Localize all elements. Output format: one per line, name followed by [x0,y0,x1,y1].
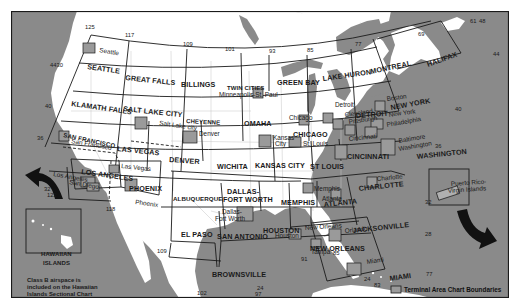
sectional-chicago[interactable]: CHICAGO [293,130,328,139]
svg-text:91: 91 [301,256,307,262]
hawaii-inset [26,209,81,253]
sectional-brownsville[interactable]: BROWNSVILLE [212,270,266,279]
svg-text:102: 102 [197,290,207,296]
svg-text:83: 83 [374,282,380,288]
bahamas [380,276,382,278]
hawaii-note-line3: Islands Sectional Chart [27,291,92,297]
svg-text:61: 61 [470,18,476,24]
legend-tac-label: Terminal Area Chart Boundaries [404,286,502,293]
svg-text:40: 40 [45,103,51,109]
sectional-hawaiian[interactable]: HAWAIIAN [41,251,72,257]
hawaii-note-line2: included on the Hawaiian [27,284,98,290]
sectional-green-bay[interactable]: GREEN BAY [277,78,320,87]
svg-text:97: 97 [255,291,261,297]
svg-text:32: 32 [425,199,431,205]
tac-dallas-2[interactable]: Fort Worth [215,215,246,222]
tac-denver[interactable]: Denver [199,130,220,137]
svg-text:24: 24 [257,285,264,291]
sectional-phoenix[interactable]: PHOENIX [129,184,162,193]
svg-text:28: 28 [425,231,431,237]
sectional-el-paso[interactable]: EL PASO [181,230,213,239]
sectional-st-louis[interactable]: ST LOUIS [310,162,344,171]
sectional-kansas-city[interactable]: KANSAS CITY [255,161,305,170]
svg-text:85: 85 [307,47,313,53]
svg-text:77: 77 [355,41,361,47]
svg-text:36: 36 [37,135,43,141]
sectional-wichita[interactable]: WICHITA [217,162,248,171]
svg-text:44: 44 [493,51,500,57]
tac-memphis[interactable]: Memphis [314,185,340,193]
svg-text:85: 85 [333,250,339,256]
svg-text:69: 69 [418,31,424,37]
tac-detroit[interactable]: Detroit [335,101,354,108]
sectional-cincinnati[interactable]: CINCINNATI [347,152,389,161]
tac-kansas-city-2[interactable]: City [275,140,287,148]
tac-dallas[interactable]: Dallas- [222,208,242,215]
svg-text:109: 109 [157,248,167,254]
sectional-albuquerque[interactable]: ALBUQUERQUE [173,195,223,202]
tac-atlanta[interactable]: Atlanta [322,195,342,202]
svg-text:122: 122 [47,192,57,198]
legend-tac-swatch [391,286,401,293]
svg-text:48: 48 [479,18,485,24]
svg-text:40: 40 [455,106,461,112]
sectional-dallas-fort-worth-2[interactable]: FORT WORTH [223,195,273,204]
tac-houston[interactable]: Houston [275,232,299,239]
svg-text:117: 117 [125,32,134,38]
svg-text:93: 93 [269,48,275,54]
svg-text:36: 36 [435,143,441,149]
sectional-san-antonio[interactable]: SAN ANTONIO [217,232,268,241]
sectional-billings[interactable]: BILLINGS [181,80,215,89]
hawaii-note-line1: Class B airspace is [27,277,81,283]
tac-minneapolis[interactable]: Minneapolis-St. Paul [219,91,278,99]
sectional-memphis[interactable]: MEMPHIS [281,198,315,207]
bahamas [372,272,374,274]
svg-text:101: 101 [225,46,235,52]
svg-text:77: 77 [426,271,432,277]
svg-text:109: 109 [183,41,193,47]
svg-text:125: 125 [85,24,95,30]
sectional-omaha[interactable]: OMAHA [244,119,272,128]
tac-chicago[interactable]: Chicago [289,114,313,122]
sectional-hawaiian-2[interactable]: ISLANDS [43,260,70,266]
chart-index-map: SEATTLE GREAT FALLS BILLINGS TWIN CITIES… [11,11,509,298]
tac-st-louis[interactable]: St. Louis [303,140,328,147]
svg-text:118: 118 [106,206,115,212]
svg-text:4430: 4430 [50,62,63,68]
svg-text:24: 24 [364,276,371,282]
tac-tampa[interactable]: Tampa [311,248,331,256]
